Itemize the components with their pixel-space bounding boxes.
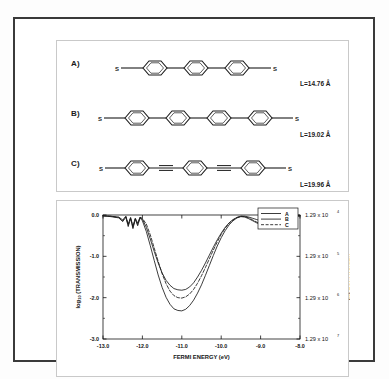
figure-root: A) S S: [0, 0, 389, 379]
x-tick-label: -12.0: [136, 343, 148, 349]
resistance-axis-title: RESISTANCE (Ω): [349, 253, 350, 300]
y-axis-ticks: 0.0-1.0-2.0-3.0: [90, 212, 107, 342]
length-label-a: L=14.76 Å: [300, 80, 331, 87]
resistance-tick-label: 1.29 x 10: [305, 212, 328, 218]
terminal-sulfur-left-a: S: [115, 66, 119, 72]
terminal-sulfur-right-a: S: [273, 66, 277, 72]
x-tick-label: -8.0: [295, 343, 304, 349]
molecular-structures-panel: A) S S: [56, 40, 349, 192]
curve-c: [103, 216, 300, 311]
structure-row-a: A) S S: [57, 45, 350, 91]
terminal-sulfur-right-c: S: [288, 166, 292, 172]
resistance-axis-ticks: 1.29 x 1041.29 x 1051.29 x 1061.29 x 107: [297, 209, 341, 342]
resistance-tick-exponent: 7: [337, 333, 339, 338]
structure-row-b: B): [57, 95, 350, 141]
terminal-sulfur-right-b: S: [295, 116, 299, 122]
y-tick-label: -3.0: [90, 336, 99, 342]
y-axis-title: log10 (TRANSMISSION): [75, 245, 82, 308]
transmission-chart-panel: -13.0-12.0-11.0-10.0-9.0-8.0 0.0-1.0-2.0…: [56, 200, 349, 377]
resistance-tick-label: 1.29 x 10: [305, 336, 328, 342]
y-tick-label: -1.0: [90, 253, 99, 259]
data-curves: [103, 216, 300, 311]
terminal-sulfur-left-c: S: [99, 166, 103, 172]
transmission-resistance-plot: -13.0-12.0-11.0-10.0-9.0-8.0 0.0-1.0-2.0…: [57, 201, 350, 378]
axis-titles: FERMI ENERGY (eV)log10 (TRANSMISSION)RES…: [75, 245, 350, 360]
resistance-tick-label: 1.29 x 10: [305, 295, 328, 301]
length-label-c: L=19.96 Å: [300, 181, 331, 188]
terminal-sulfur-left-b: S: [98, 116, 102, 122]
x-tick-label: -9.0: [256, 343, 265, 349]
structure-row-c: C): [57, 145, 350, 191]
y-tick-label: -2.0: [90, 295, 99, 301]
resistance-tick-exponent: 6: [337, 292, 339, 297]
resistance-tick-exponent: 4: [337, 209, 340, 214]
resistance-tick-label: 1.29 x 10: [305, 253, 328, 259]
x-tick-label: -13.0: [97, 343, 109, 349]
x-tick-label: -11.0: [176, 343, 188, 349]
y-tick-label: 0.0: [92, 212, 100, 218]
x-axis-ticks: -13.0-12.0-11.0-10.0-9.0-8.0: [97, 215, 305, 349]
chart-legend: ABC: [258, 208, 298, 229]
length-label-b: L=19.02 Å: [300, 131, 331, 138]
x-tick-label: -10.0: [215, 343, 227, 349]
resistance-tick-exponent: 5: [337, 251, 339, 256]
plot-axes: [103, 215, 300, 339]
legend-label-c: C: [285, 222, 289, 228]
x-axis-title: FERMI ENERGY (eV): [173, 354, 230, 360]
figure-outer-frame: A) S S: [13, 17, 375, 362]
